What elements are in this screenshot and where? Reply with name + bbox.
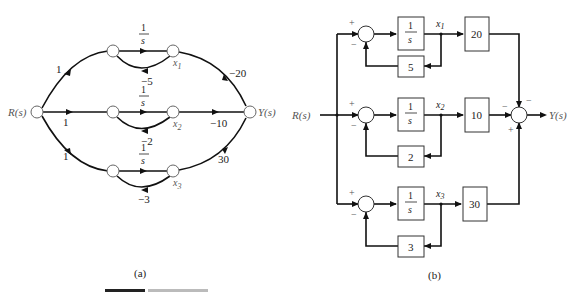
arrow-icon [140,168,147,174]
output-label-y: Y(s) [258,106,276,119]
node-r [31,106,43,118]
panel-b-blocks [398,17,489,257]
state-label-x2: x2 [172,118,181,132]
state-label-x1: x1 [435,18,444,31]
node-y [244,106,256,118]
arrow-icon [457,31,464,37]
output-gain-1: −20 [229,67,247,79]
feedback-gain-1: −5 [141,75,153,87]
arrow-icon [140,48,147,54]
sign-plus: + [508,124,514,135]
arrow-icon [66,109,73,115]
output-gain-1: 20 [471,28,483,40]
branch-r-to-x1 [42,51,108,108]
fb-path-2a [424,115,441,156]
integrator-num: 1 [408,20,413,31]
branch-x1-to-y [179,52,246,106]
integrator-den: s [408,34,412,45]
integrator-num: 1 [408,190,413,201]
panel-a-caption: (a) [134,267,147,280]
arrow-icon [363,42,369,49]
arrow-icon [390,201,397,207]
sign-minus: − [526,95,532,106]
integrator-num: 1 [141,22,146,33]
arrow-icon [140,109,147,115]
input-label-r: R(s) [291,109,311,122]
arrow-icon [363,212,369,219]
gain3-to-out [487,123,519,204]
sign-minus: − [351,120,357,131]
feedback-gain-3: −3 [138,193,150,205]
gain-label: 1 [56,63,62,75]
arrow-icon [457,112,464,118]
arrow-icon [141,68,148,74]
output-summing-junction [511,107,527,123]
output-label-y: Y(s) [549,109,567,122]
panel-b-junctions [335,32,442,205]
panel-a-arrows [64,48,228,193]
arrow-icon [363,123,369,130]
node-x3 [167,165,179,177]
arrow-icon [390,112,397,118]
fb-path-3a [424,204,441,246]
node-row3-in [107,165,119,177]
junction-dot [439,32,442,35]
summing-junction-3 [358,196,374,212]
fb-path-1a [424,34,441,66]
summing-junction-2 [358,107,374,123]
input-label-r: R(s) [7,106,27,119]
gain-label: 1 [63,150,69,162]
node-row1-in [107,45,119,57]
arrow-icon [424,243,431,249]
feedback-gain-2: −2 [141,135,153,147]
output-gain-2: 10 [471,109,483,121]
feedback-loop-3 [117,176,170,187]
arrow-icon [424,63,431,69]
figure-canvas: R(s) Y(s) 1 1 1 1 s 1 s 1 s x1 x2 x3 −5 … [0,0,577,292]
junction-dot [335,113,338,116]
summing-junction-1 [358,26,374,42]
sign-minus: − [351,209,357,220]
integrator-den: s [408,115,412,126]
feedback-gain-2: 2 [408,151,414,163]
feedback-gain-3: 3 [408,241,414,253]
panel-b-caption: (b) [428,269,441,282]
state-label-x1: x1 [172,57,181,71]
state-label-x2: x2 [435,99,444,112]
arrow-icon [390,31,397,37]
node-x2 [167,106,179,118]
integrator-den: s [141,155,145,166]
feedback-loop-2 [117,117,170,129]
panel-b-arrows [352,31,547,249]
feedback-loop-1 [117,56,170,68]
branch-r-to-x3 [42,116,108,171]
integrator-den: s [141,35,145,46]
sign-plus: + [349,98,355,109]
arrow-icon [455,201,462,207]
gain-label: 1 [63,116,69,128]
node-x1 [167,45,179,57]
junction-dot [439,202,442,205]
sign-plus: + [349,17,355,28]
state-label-x3: x3 [435,188,444,201]
output-gain-3: 30 [469,198,481,210]
panel-b-summers [358,26,527,212]
sign-minus: − [502,101,508,112]
state-label-x3: x3 [172,177,181,191]
output-gain-3: 30 [218,153,230,165]
fb-path-3b [366,212,398,246]
output-gain-2: −10 [210,117,228,129]
fb-path-2b [366,123,398,156]
node-row2-in [107,106,119,118]
integrator-num: 1 [408,101,413,112]
arrow-icon [424,153,431,159]
integrator-den: s [408,204,412,215]
arrow-icon [540,112,547,118]
junction-dot [439,113,442,116]
sign-plus: + [349,187,355,198]
arrow-icon [212,109,219,115]
feedback-gain-1: 5 [408,61,414,73]
gain1-to-out [489,34,519,107]
fb-path-1b [366,42,398,66]
panel-a-labels: R(s) Y(s) 1 1 1 1 s 1 s 1 s x1 x2 x3 −5 … [7,22,276,280]
